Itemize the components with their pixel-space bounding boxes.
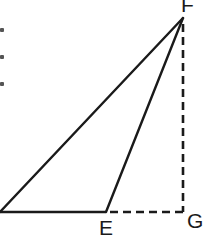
segment-left-f <box>0 18 183 212</box>
vertex-label-f: F <box>181 0 194 15</box>
vertex-label-g: G <box>187 210 203 231</box>
edge-mark-2 <box>0 55 4 59</box>
triangle-diagram <box>0 0 206 241</box>
edge-mark-3 <box>0 82 4 86</box>
segment-e-f <box>106 18 183 212</box>
vertex-label-e: E <box>99 217 113 238</box>
edge-mark-1 <box>0 28 4 32</box>
